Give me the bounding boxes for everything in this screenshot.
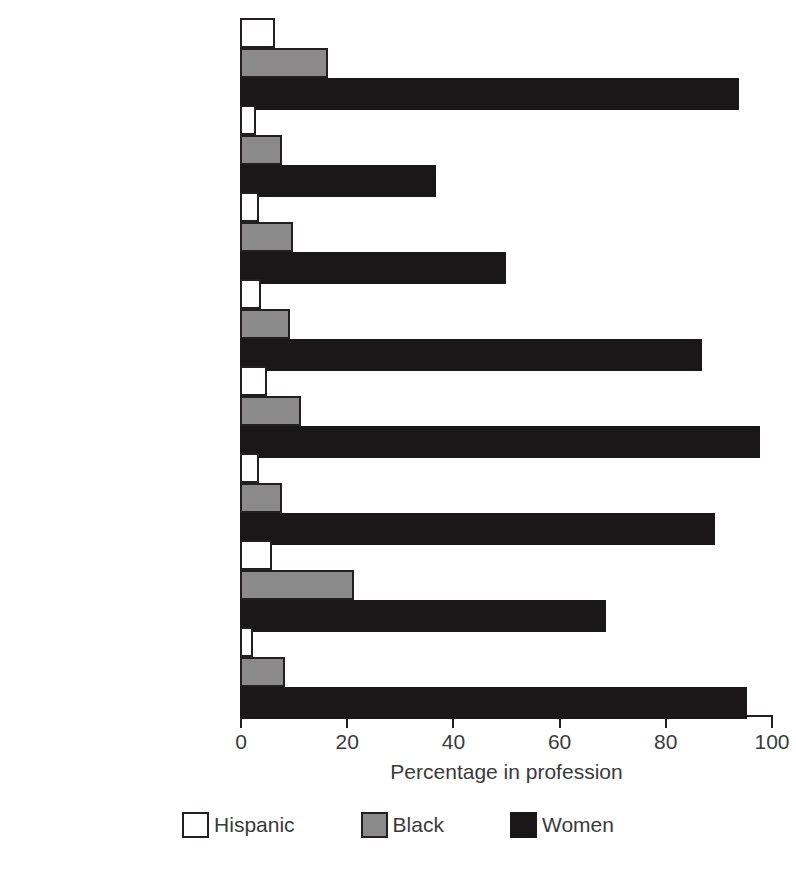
bar-black <box>240 396 301 426</box>
bar-women <box>240 252 506 284</box>
legend-item-women[interactable]: Women <box>510 812 614 838</box>
bar-women <box>240 687 747 719</box>
bar-women <box>240 165 436 197</box>
legend-item-hispanic[interactable]: Hispanic <box>182 812 295 838</box>
bar-women <box>240 78 739 110</box>
bar-hispanic <box>240 627 253 657</box>
x-axis-title: Percentage in profession <box>240 760 773 784</box>
legend-label: Women <box>542 813 614 837</box>
bar-hispanic <box>240 279 261 309</box>
bar-women <box>240 426 760 458</box>
legend-item-black[interactable]: Black <box>361 812 444 838</box>
legend-label: Black <box>393 813 444 837</box>
bar-chart-figure: 020406080100 Percentage in profession Hi… <box>0 0 796 872</box>
bar-hispanic <box>240 192 259 222</box>
x-axis-tick-label: 40 <box>442 730 465 754</box>
bar-hispanic <box>240 366 267 396</box>
bar-women <box>240 513 715 545</box>
x-axis-tick-label: 80 <box>654 730 677 754</box>
legend-swatch-black-icon <box>361 812 388 838</box>
chart-legend: HispanicBlackWomen <box>0 812 796 838</box>
bar-black <box>240 483 282 513</box>
bar-women <box>240 339 702 371</box>
x-axis-tick-label: 0 <box>235 730 247 754</box>
bar-hispanic <box>240 105 256 135</box>
bar-black <box>240 657 285 687</box>
x-axis-tick-label: 100 <box>754 730 789 754</box>
bar-black <box>240 222 293 252</box>
bar-black <box>240 570 354 600</box>
bar-hispanic <box>240 453 259 483</box>
bar-black <box>240 48 328 78</box>
x-axis-tick-label: 20 <box>336 730 359 754</box>
bar-black <box>240 309 290 339</box>
x-axis-tick <box>771 717 773 728</box>
bar-hispanic <box>240 18 275 48</box>
bar-hispanic <box>240 540 272 570</box>
x-axis-tick-label: 60 <box>548 730 571 754</box>
bar-women <box>240 600 606 632</box>
legend-swatch-women-icon <box>510 812 537 838</box>
legend-swatch-hispanic-icon <box>182 812 209 838</box>
bar-black <box>240 135 282 165</box>
legend-label: Hispanic <box>214 813 295 837</box>
